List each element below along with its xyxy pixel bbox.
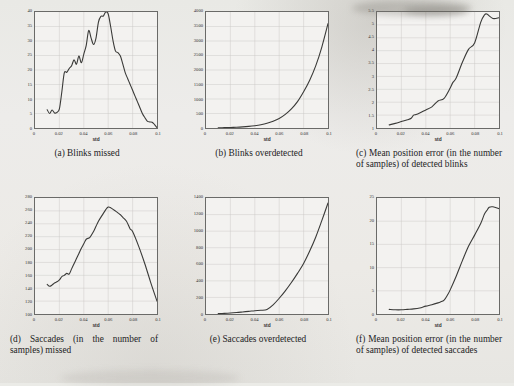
- panel-f-ytick-label: 15: [369, 242, 374, 247]
- panel-e-ytick-label: 0: [201, 313, 203, 318]
- figure-row-bottom: 100120140160180200220240260280 00.020.04…: [0, 188, 514, 376]
- panel-c-ytick-label: 4: [372, 48, 374, 53]
- panel-c-ytick-label: 1: [372, 127, 374, 132]
- panel-c-curve: [389, 14, 499, 125]
- panel-d-ytick-label: 260: [25, 208, 32, 213]
- panel-b-curve: [218, 24, 328, 128]
- panel-d-xtick-label: 0.02: [55, 317, 63, 322]
- panel-a-ytick-label: 40: [27, 9, 32, 14]
- panel-a-xtick-label: 0.1: [155, 131, 161, 136]
- figure-row-top: 0510152025303540 00.020.040.060.080.1 st…: [0, 2, 514, 190]
- panel-b-ytick-label: 500: [196, 112, 203, 117]
- panel-d-curve: [47, 207, 157, 301]
- panel-b-ytick-label: 1500: [194, 82, 203, 87]
- panel-e-caption: (e) Saccades overdetected: [187, 334, 329, 345]
- panel-a-xtick-label: 0.04: [80, 131, 88, 136]
- panel-e-ytick-label: 400: [196, 279, 203, 284]
- panel-f-curve: [389, 207, 499, 310]
- panel-c: 11.522.533.544.555.5 00.020.040.060.080.…: [342, 2, 513, 190]
- panel-c-ytick-label: 2.5: [368, 87, 374, 92]
- panel-d-caption: (d) Saccades (in the number of samples) …: [10, 334, 158, 357]
- panel-e-xtick-label: 0.02: [226, 317, 234, 322]
- panel-a-xtick-label: 0.02: [55, 131, 63, 136]
- panel-c-ytick-label: 3: [372, 74, 374, 79]
- panel-a-ytick-label: 20: [27, 68, 32, 73]
- panel-b-caption: (b) Blinks overdetected: [189, 148, 329, 159]
- panel-a-y-axis: 0510152025303540: [0, 11, 32, 129]
- panel-b-xlabel: std: [205, 137, 329, 142]
- panel-f-ytick-label: 5: [372, 289, 374, 294]
- panel-c-xtick-label: 0.04: [422, 131, 430, 136]
- panel-d-xtick-label: 0.04: [80, 317, 88, 322]
- panel-f: 0510152025 00.020.040.060.080.1 std (f) …: [342, 188, 513, 376]
- panel-e-ytick-label: 1000: [194, 228, 203, 233]
- panel-c-ytick-label: 2: [372, 100, 374, 105]
- panel-a-ytick-label: 30: [27, 38, 32, 43]
- panel-d-xtick-label: 0.08: [129, 317, 137, 322]
- panel-e-plot: [205, 197, 329, 315]
- panel-d-xlabel: std: [34, 323, 158, 328]
- panel-d: 100120140160180200220240260280 00.020.04…: [0, 188, 171, 376]
- panel-b-plot: [205, 11, 329, 129]
- panel-c-xtick-label: 0.1: [497, 131, 503, 136]
- panel-e-ytick-label: 800: [196, 245, 203, 250]
- panel-f-xlabel: std: [376, 323, 500, 328]
- panel-c-plot: [376, 11, 500, 129]
- panel-b-xtick-label: 0: [204, 131, 206, 136]
- panel-c-ytick-label: 5.5: [368, 9, 374, 14]
- panel-f-xtick-label: 0.08: [471, 317, 479, 322]
- panel-d-xtick-label: 0: [33, 317, 35, 322]
- panel-d-plot: [34, 197, 158, 315]
- panel-c-xtick-label: 0.08: [471, 131, 479, 136]
- panel-f-xtick-label: 0.1: [497, 317, 503, 322]
- panel-b-xtick-label: 0.08: [300, 131, 308, 136]
- panel-b-ytick-label: 3000: [194, 38, 203, 43]
- panel-f-ytick-label: 25: [369, 195, 374, 200]
- panel-a-ytick-label: 5: [30, 112, 32, 117]
- panel-b-ytick-label: 3500: [194, 23, 203, 28]
- panel-c-xtick-label: 0: [375, 131, 377, 136]
- panel-b: 05001000150020002500300035004000 00.020.…: [171, 2, 342, 190]
- panel-c-xlabel: std: [376, 137, 500, 142]
- panel-a-xtick-label: 0.06: [104, 131, 112, 136]
- panel-b-xtick-label: 0.02: [226, 131, 234, 136]
- panel-d-ytick-label: 180: [25, 260, 32, 265]
- panel-e-xlabel: std: [205, 323, 329, 328]
- panel-b-ytick-label: 0: [201, 127, 203, 132]
- panel-e-xtick-label: 0.06: [275, 317, 283, 322]
- panel-c-xtick-label: 0.02: [397, 131, 405, 136]
- panel-e-xtick-label: 0.08: [300, 317, 308, 322]
- panel-b-y-axis: 05001000150020002500300035004000: [171, 11, 203, 129]
- panel-e: 0200400600800100012001400 00.020.040.060…: [171, 188, 342, 376]
- panel-c-caption: (c) Mean position error (in the number o…: [356, 148, 502, 171]
- panel-e-xtick-label: 0.1: [326, 317, 332, 322]
- panel-a-caption: (a) Blinks missed: [27, 148, 147, 159]
- panel-f-xtick-label: 0.04: [422, 317, 430, 322]
- panel-b-xtick-label: 0.06: [275, 131, 283, 136]
- panel-e-xtick-label: 0: [204, 317, 206, 322]
- panel-e-ytick-label: 200: [196, 296, 203, 301]
- panel-f-y-axis: 0510152025: [342, 197, 374, 315]
- panel-f-ytick-label: 0: [372, 313, 374, 318]
- panel-d-ytick-label: 220: [25, 234, 32, 239]
- panel-e-ytick-label: 600: [196, 262, 203, 267]
- panel-d-ytick-label: 280: [25, 195, 32, 200]
- panel-a-plot: [34, 11, 158, 129]
- panel-a-ytick-label: 15: [27, 82, 32, 87]
- panel-d-xtick-label: 0.1: [155, 317, 161, 322]
- panel-e-y-axis: 0200400600800100012001400: [171, 197, 203, 315]
- panel-b-ytick-label: 4000: [194, 9, 203, 14]
- panel-c-y-axis: 11.522.533.544.555.5: [342, 11, 374, 129]
- panel-d-ytick-label: 240: [25, 221, 32, 226]
- panel-c-ytick-label: 5: [372, 22, 374, 27]
- panel-e-ytick-label: 1400: [194, 195, 203, 200]
- panel-c-ytick-label: 3.5: [368, 61, 374, 66]
- panel-f-xtick-label: 0.06: [446, 317, 454, 322]
- panel-d-xtick-label: 0.06: [104, 317, 112, 322]
- panel-a-ytick-label: 35: [27, 23, 32, 28]
- panel-a: 0510152025303540 00.020.040.060.080.1 st…: [0, 2, 171, 190]
- panel-a-xtick-label: 0: [33, 131, 35, 136]
- panel-d-ytick-label: 100: [25, 313, 32, 318]
- panel-d-ytick-label: 160: [25, 273, 32, 278]
- panel-f-xtick-label: 0: [375, 317, 377, 322]
